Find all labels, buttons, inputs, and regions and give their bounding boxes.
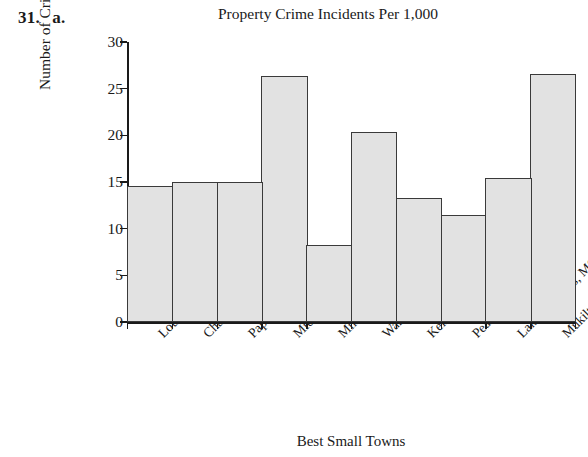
bar: [485, 178, 531, 322]
bar: [441, 215, 487, 322]
bar: [217, 182, 263, 322]
bar: [127, 186, 173, 322]
y-tick-label: 25: [108, 79, 124, 99]
y-tick-label: 20: [108, 125, 124, 145]
bar: [351, 132, 397, 322]
bar: [396, 198, 442, 322]
bar: [261, 76, 307, 322]
x-tick-label: Milton, MA: [335, 330, 346, 341]
x-tick-label: Warren, NJ: [379, 330, 390, 341]
figure-page: Property Crime 31.a. Property Crime Inci…: [0, 0, 588, 457]
y-tick-label: 30: [108, 32, 124, 52]
x-tick-label: Mukilteo, WA: [559, 330, 570, 341]
x-tick-label: Louisville, CO: [155, 330, 166, 341]
problem-part: a.: [52, 8, 65, 27]
y-tick-label: 10: [108, 219, 124, 239]
x-tick-label-group: Louisville, COChanhassen, MNPapillion, N…: [127, 330, 587, 435]
bar: [306, 245, 352, 322]
bar: [172, 182, 218, 322]
x-tick-label: Keller, TX: [424, 330, 435, 341]
x-tick-label: Papillion, NE: [245, 330, 256, 341]
x-tick: [127, 322, 128, 329]
x-tick-label: Chanhassen, MN: [200, 330, 211, 341]
y-tick-label: 0: [115, 312, 123, 332]
x-tick-label: Middleton, WI: [290, 330, 301, 341]
y-tick-label: 15: [108, 172, 124, 192]
plot-area: 051015202530: [127, 42, 575, 322]
bar: [530, 74, 576, 322]
y-axis-title: Number of Crimes: [36, 0, 54, 90]
x-axis-title: Best Small Towns: [127, 433, 575, 450]
x-tick-label: Lake St. Louis, MO: [514, 330, 525, 341]
bar-series: [127, 42, 575, 322]
x-tick-label: Peachtree City, GA: [469, 330, 480, 341]
chart-title: Property Crime Incidents Per 1,000: [118, 5, 538, 23]
y-tick-label: 5: [115, 265, 123, 285]
